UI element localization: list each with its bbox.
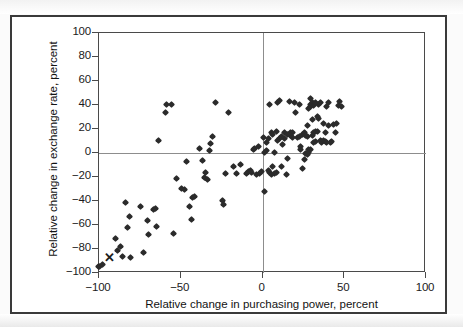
x-tick-label: −50 [155,281,205,293]
x-tick-mark [98,272,99,278]
y-tick-mark [92,224,98,225]
scatter-plot: −100−80−60−40−20020406080100 −100−500501… [0,0,463,327]
y-tick-label: −100 [51,265,91,277]
y-tick-mark [92,104,98,105]
x-tick-label: −100 [73,281,123,293]
y-tick-mark [92,200,98,201]
y-tick-mark [92,152,98,153]
highlighted-data-point: ✕ [104,252,115,263]
x-tick-mark [343,272,344,278]
x-tick-label: 50 [318,281,368,293]
y-tick-mark [92,32,98,33]
figure-canvas: −100−80−60−40−20020406080100 −100−500501… [0,0,463,327]
x-tick-mark [180,272,181,278]
y-tick-mark [92,56,98,57]
y-tick-mark [92,176,98,177]
y-axis-title: Relative change in exchange rate, percen… [46,34,60,264]
y-tick-mark [92,248,98,249]
y-tick-mark [92,80,98,81]
x-tick-mark [425,272,426,278]
x-tick-mark [262,272,263,278]
x-tick-label: 0 [237,281,287,293]
x-tick-label: 100 [400,281,450,293]
x-axis-title: Relative change in purchasing power, per… [98,298,425,310]
y-tick-mark [92,128,98,129]
